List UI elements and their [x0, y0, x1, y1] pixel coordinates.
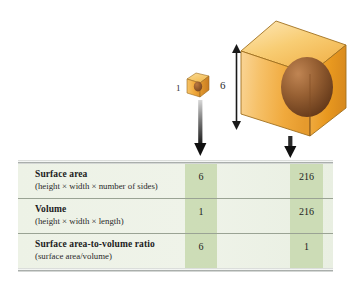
cell-small-cube: 1: [185, 206, 217, 217]
row-title: Surface area-to-volume ratio: [35, 239, 185, 250]
height-dimension-arrow: [231, 44, 242, 130]
table-body: Surface area (height × width × number of…: [18, 164, 333, 268]
row-label: Volume (height × width × length): [35, 204, 185, 227]
small-cube-pointer-arrow: [193, 100, 208, 156]
row-label: Surface area (height × width × number of…: [35, 169, 185, 192]
table-row: Surface area (height × width × number of…: [18, 164, 333, 198]
large-cube-pointer-arrow: [283, 136, 298, 158]
cell-small-cube: 6: [185, 171, 217, 182]
table-row: Volume (height × width × length) 1 216: [18, 199, 333, 233]
small-cube-dimension-label: 1: [176, 84, 181, 93]
large-cube: [240, 18, 348, 140]
surface-area-volume-figure: 1: [0, 0, 353, 289]
large-cube-dimension-label: 6: [220, 80, 226, 91]
row-title: Volume: [35, 204, 185, 215]
cell-large-cube: 1: [290, 241, 323, 252]
small-cube: [185, 72, 211, 100]
row-formula: (surface area/volume): [35, 251, 185, 262]
table-row: Surface area-to-volume ratio (surface ar…: [18, 234, 333, 268]
table-bottom-rule: [18, 268, 333, 272]
cell-large-cube: 216: [290, 171, 323, 182]
row-formula: (height × width × number of sides): [35, 181, 185, 192]
row-formula: (height × width × length): [35, 216, 185, 227]
row-title: Surface area: [35, 169, 185, 180]
cube-diagram: 1: [0, 0, 353, 152]
row-label: Surface area-to-volume ratio (surface ar…: [35, 239, 185, 262]
cell-small-cube: 6: [185, 241, 217, 252]
comparison-table: Surface area (height × width × number of…: [18, 160, 333, 272]
cell-large-cube: 216: [290, 206, 323, 217]
